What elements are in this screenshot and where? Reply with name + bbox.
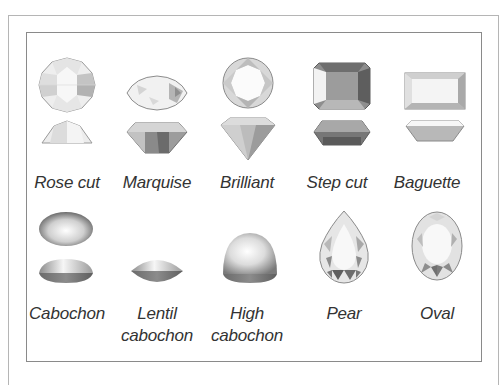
marquise-label: Marquise — [107, 172, 207, 194]
lentil-cabochon-label-line2: cabochon — [107, 325, 207, 347]
brilliant-label: Brilliant — [197, 172, 297, 194]
rose-cut-label: Rose cut — [17, 172, 117, 194]
baguette-top-view-icon — [404, 72, 466, 110]
high-cabochon-side-view-icon — [222, 232, 278, 284]
rose-cut-side-view-icon — [40, 120, 94, 144]
marquise-top-view-icon — [125, 75, 189, 111]
cabochon-top-view-icon — [38, 211, 94, 247]
baguette-side-view-icon — [405, 120, 465, 142]
lentil-cabochon-side-view-icon — [130, 259, 184, 283]
pear-top-view-icon — [318, 210, 370, 284]
step-cut-label: Step cut — [287, 172, 387, 194]
brilliant-top-view-icon — [222, 57, 274, 109]
high-cabochon-label-line1: High — [197, 303, 297, 325]
rose-cut-top-view-icon — [37, 57, 97, 113]
cabochon-label: Cabochon — [17, 303, 117, 325]
step-cut-side-view-icon — [313, 120, 371, 146]
baguette-label: Baguette — [377, 172, 477, 194]
brilliant-side-view-icon — [220, 117, 276, 161]
oval-top-view-icon — [411, 211, 463, 281]
lentil-cabochon-label-line1: Lentil — [107, 303, 207, 325]
oval-label: Oval — [387, 303, 487, 325]
high-cabochon-label-line2: cabochon — [197, 325, 297, 347]
cabochon-side-view-icon — [38, 258, 94, 284]
step-cut-top-view-icon — [313, 62, 371, 110]
pear-label: Pear — [294, 303, 394, 325]
marquise-side-view-icon — [125, 120, 189, 154]
